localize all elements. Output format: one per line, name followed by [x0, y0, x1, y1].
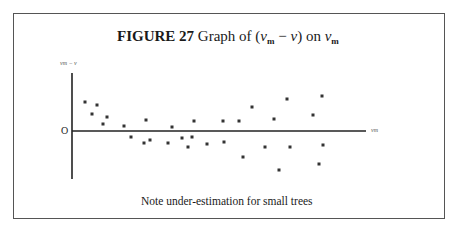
data-point	[102, 123, 105, 126]
data-point	[222, 120, 225, 123]
data-points	[84, 95, 325, 172]
data-point	[91, 113, 94, 116]
data-point	[167, 142, 170, 145]
data-point	[242, 156, 245, 159]
data-point	[145, 119, 148, 122]
data-point	[264, 146, 267, 149]
data-point	[130, 136, 133, 139]
data-point	[251, 106, 254, 109]
data-point	[273, 118, 276, 121]
data-point	[321, 95, 324, 98]
data-point	[106, 116, 109, 119]
data-point	[84, 101, 87, 104]
data-point	[238, 120, 241, 123]
data-point	[191, 136, 194, 139]
data-point	[289, 146, 292, 149]
data-point	[123, 125, 126, 128]
data-point	[322, 144, 325, 147]
data-point	[278, 169, 281, 172]
data-point	[143, 142, 146, 145]
data-point	[96, 104, 99, 107]
data-point	[193, 120, 196, 123]
data-point	[187, 146, 190, 149]
data-point	[181, 137, 184, 140]
data-point	[318, 163, 321, 166]
data-point	[312, 114, 315, 117]
data-point	[286, 98, 289, 101]
data-point	[206, 143, 209, 146]
data-point	[149, 139, 152, 142]
figure-caption: Note under-estimation for small trees	[141, 195, 313, 207]
data-point	[171, 126, 174, 129]
data-point	[223, 141, 226, 144]
